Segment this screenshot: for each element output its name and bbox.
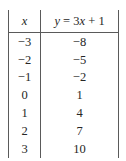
cell-x-value: 3 bbox=[9, 140, 41, 158]
table-row: −1−2 bbox=[9, 69, 119, 87]
cell-y-value: −5 bbox=[41, 51, 119, 69]
table-row: −2−5 bbox=[9, 51, 119, 69]
column-header-x: x bbox=[9, 10, 41, 33]
equation-plus-sign: + bbox=[85, 14, 98, 28]
table-header-row: x y = 3x + 1 bbox=[9, 10, 119, 33]
table-row: 27 bbox=[9, 122, 119, 140]
cell-y-value: 10 bbox=[41, 140, 119, 158]
column-header-y-equation: y = 3x + 1 bbox=[41, 10, 119, 33]
table-row: 01 bbox=[9, 87, 119, 105]
cell-x-value: −1 bbox=[9, 69, 41, 87]
cell-y-value: 1 bbox=[41, 87, 119, 105]
table-body: −3−8−2−5−1−2011427310 bbox=[9, 33, 119, 159]
function-value-table: x y = 3x + 1 −3−8−2−5−1−2011427310 bbox=[8, 10, 119, 158]
function-table-container: x y = 3x + 1 −3−8−2−5−1−2011427310 bbox=[0, 0, 126, 161]
table-row: −3−8 bbox=[9, 33, 119, 51]
table-header: x y = 3x + 1 bbox=[9, 10, 119, 33]
cell-x-value: −3 bbox=[9, 33, 41, 51]
table-row: 310 bbox=[9, 140, 119, 158]
cell-x-value: 0 bbox=[9, 87, 41, 105]
cell-y-value: 7 bbox=[41, 122, 119, 140]
cell-x-value: 1 bbox=[9, 104, 41, 122]
cell-y-value: −8 bbox=[41, 33, 119, 51]
cell-y-value: −2 bbox=[41, 69, 119, 87]
equation-expression: y = 3x + 1 bbox=[54, 14, 104, 28]
equation-equals-sign: = bbox=[60, 14, 73, 28]
cell-y-value: 4 bbox=[41, 104, 119, 122]
table-row: 14 bbox=[9, 104, 119, 122]
cell-x-value: −2 bbox=[9, 51, 41, 69]
equation-constant: 1 bbox=[98, 14, 104, 28]
cell-x-value: 2 bbox=[9, 122, 41, 140]
